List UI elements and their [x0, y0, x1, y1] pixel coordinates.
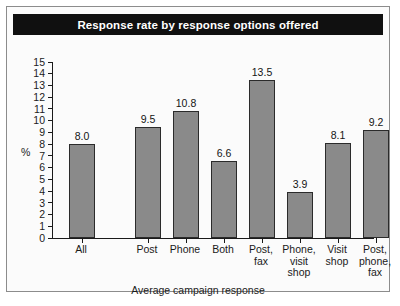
- bar-value-label: 8.1: [331, 129, 346, 141]
- bar[interactable]: 8.1: [325, 143, 351, 238]
- y-axis-tick-mark: [48, 132, 53, 133]
- bar[interactable]: 9.2: [363, 130, 389, 238]
- y-axis-tick-mark: [48, 62, 53, 63]
- y-axis-tick-label: 2: [39, 209, 45, 220]
- y-axis-tick-label: 12: [33, 91, 45, 102]
- y-axis-tick-label: 0: [39, 232, 45, 243]
- bar-value-label: 9.5: [141, 113, 156, 125]
- y-axis-label: %: [21, 146, 30, 158]
- y-axis-tick-mark: [48, 167, 53, 168]
- y-axis-tick-label: 13: [33, 80, 45, 91]
- y-axis-tick-label: 4: [39, 185, 45, 196]
- chart-figure: Response rate by response options offere…: [6, 6, 390, 292]
- y-axis-tick-mark: [48, 214, 53, 215]
- y-axis-tick-label: 10: [33, 115, 45, 126]
- bar[interactable]: 6.6: [211, 161, 237, 238]
- y-axis-tick-mark: [48, 120, 53, 121]
- y-axis-tick-label: 6: [39, 162, 45, 173]
- bar-value-label: 8.0: [75, 130, 90, 142]
- y-axis-tick-mark: [48, 191, 53, 192]
- y-axis-tick-mark: [48, 202, 53, 203]
- y-axis-tick-mark: [48, 226, 53, 227]
- y-axis-tick-mark: [48, 97, 53, 98]
- y-axis-tick-mark: [48, 155, 53, 156]
- chart-title-bar: Response rate by response options offere…: [13, 14, 383, 35]
- chart-title: Response rate by response options offere…: [77, 19, 318, 31]
- y-axis-tick-label: 1: [39, 221, 45, 232]
- bar[interactable]: 8.0: [69, 144, 95, 238]
- y-axis-tick-label: 11: [34, 103, 45, 114]
- bar[interactable]: 3.9: [287, 192, 313, 238]
- x-axis-category-label: Post,phone,fax: [349, 244, 400, 279]
- bar[interactable]: 9.5: [135, 127, 161, 238]
- y-axis-tick-label: 5: [39, 174, 45, 185]
- y-axis-tick-label: 9: [39, 127, 45, 138]
- x-axis-category-line: fax: [349, 267, 400, 279]
- bar-value-label: 6.6: [217, 147, 232, 159]
- y-axis-tick-label: 14: [33, 68, 45, 79]
- bar-value-label: 3.9: [293, 178, 308, 190]
- bar-value-label: 9.2: [369, 116, 384, 128]
- y-axis-tick-mark: [48, 144, 53, 145]
- y-axis-tick-label: 3: [39, 197, 45, 208]
- y-axis-tick-label: 7: [39, 150, 45, 161]
- bar[interactable]: 10.8: [173, 111, 199, 238]
- y-axis-tick-label: 15: [33, 56, 45, 67]
- bar-value-label: 13.5: [252, 66, 272, 78]
- y-axis-tick-mark: [48, 179, 53, 180]
- x-axis-label: Average campaign response: [7, 284, 389, 296]
- bar-value-label: 10.8: [176, 97, 196, 109]
- bar[interactable]: 13.5: [249, 80, 275, 238]
- y-axis-tick-label: 8: [39, 138, 45, 149]
- x-axis-category-line: Post,: [349, 244, 400, 256]
- y-axis-tick-mark: [48, 85, 53, 86]
- plot-area: 0123456789101112131415 8.09.510.86.613.5…: [52, 62, 374, 239]
- x-axis-category-line: shop: [273, 267, 325, 279]
- y-axis-tick-mark: [48, 238, 53, 239]
- y-axis-tick-mark: [48, 73, 53, 74]
- x-axis-category-label: All: [55, 244, 107, 256]
- x-axis-category-line: All: [55, 244, 107, 256]
- y-axis-tick-mark: [48, 108, 53, 109]
